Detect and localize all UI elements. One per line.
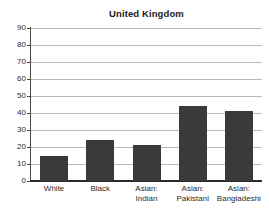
y-tick-label-40: 40 xyxy=(17,109,26,117)
y-tick-label-20: 20 xyxy=(17,143,26,151)
x-axis-label-line1: Black xyxy=(91,184,111,193)
y-tick-label-90: 90 xyxy=(17,24,26,32)
y-tick-label-60: 60 xyxy=(17,75,26,83)
y-tick-label-50: 50 xyxy=(17,92,26,100)
plot-area xyxy=(31,28,262,181)
x-axis-label-line2: Bangladeshi xyxy=(216,194,262,204)
x-axis-label-line2: Pakistani xyxy=(170,194,216,204)
x-axis-label-line1: White xyxy=(44,184,64,193)
y-tick-label-70: 70 xyxy=(17,58,26,66)
gridline-50 xyxy=(31,96,262,97)
bar xyxy=(133,145,161,181)
x-axis-label: Asian:Bangladeshi xyxy=(216,184,262,203)
x-axis-label: White xyxy=(31,184,77,194)
y-tick-label-10: 10 xyxy=(17,160,26,168)
bar xyxy=(179,106,207,181)
y-tick-label-80: 80 xyxy=(17,41,26,49)
gridline-70 xyxy=(31,62,262,63)
y-tick-label-0: 0 xyxy=(22,177,26,185)
x-axis-label: Black xyxy=(77,184,123,194)
x-axis-label-line1: Asian: xyxy=(135,184,157,193)
gridline-60 xyxy=(31,79,262,80)
y-tick-label-30: 30 xyxy=(17,126,26,134)
y-axis-tick-labels: 9080706050403020100 xyxy=(0,0,26,214)
bar-chart: United Kingdom 9080706050403020100 White… xyxy=(0,0,269,214)
chart-title: United Kingdom xyxy=(31,8,262,19)
x-axis-label: Asian:Indian xyxy=(123,184,169,203)
gridline-90 xyxy=(31,28,262,29)
x-axis-label: Asian:Pakistani xyxy=(170,184,216,203)
bar xyxy=(225,111,253,181)
x-axis-label-line2: Indian xyxy=(123,194,169,204)
x-axis-label-line1: Asian: xyxy=(228,184,250,193)
bar xyxy=(86,140,114,181)
bar xyxy=(40,156,68,182)
gridline-80 xyxy=(31,45,262,46)
x-axis-label-line1: Asian: xyxy=(182,184,204,193)
